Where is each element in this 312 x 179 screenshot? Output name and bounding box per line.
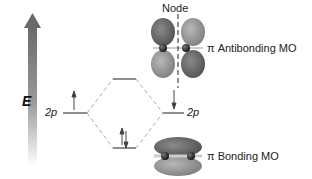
correlation-lines — [87, 79, 163, 148]
mo-diagram: E 2p 2p Node π Antibonding MO π Bonding … — [0, 0, 312, 179]
energy-axis-arrow — [24, 13, 41, 166]
node-label: Node — [162, 3, 188, 14]
antibonding-orbital-image — [151, 14, 205, 88]
bonding-mo-label: π Bonding MO — [207, 151, 279, 162]
electron-arrows — [72, 90, 176, 148]
antibonding-mo-label: π Antibonding MO — [207, 43, 297, 54]
left-2p-label: 2p — [45, 107, 57, 118]
energy-levels — [63, 79, 184, 148]
energy-axis-label: E — [22, 94, 31, 108]
bonding-orbital-image — [154, 137, 202, 176]
right-2p-label: 2p — [187, 107, 199, 118]
